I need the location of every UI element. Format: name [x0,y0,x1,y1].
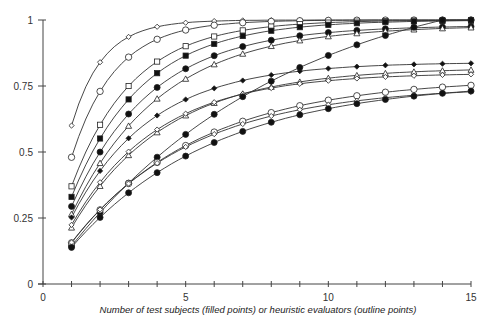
point-test-circle-a [97,149,103,155]
point-test-square [212,41,217,46]
point-heuristic-circle-b [468,82,474,88]
point-test-circle-a [183,66,189,72]
point-test-circle-a [126,111,132,117]
point-test-square [269,28,274,33]
x-axis-label: Number of test subjects (filled points) … [100,304,417,315]
point-test-circle-c [411,93,417,99]
point-test-circle-a [211,53,217,59]
point-test-circle-c [97,214,103,220]
point-heuristic-diamond-top [155,24,160,29]
curves [72,20,472,247]
point-test-diamond [183,97,188,102]
point-test-square [326,22,331,27]
point-test-circle-a [69,203,75,209]
point-heuristic-circle-b [411,86,417,92]
point-heuristic-square [212,34,217,39]
x-tick-label: 5 [183,292,189,303]
point-test-circle-b [297,64,303,70]
point-heuristic-square [155,59,160,64]
curve-test-circle-b [72,20,472,246]
point-test-circle-c [468,88,474,94]
point-test-diamond [240,78,245,83]
points [68,17,474,251]
point-test-circle-b [468,17,474,23]
y-tick-label: 0.75 [14,81,34,92]
y-tick-label: 1 [27,15,33,26]
point-test-diamond [326,66,331,71]
point-test-circle-a [268,37,274,43]
point-test-square [183,53,188,58]
point-heuristic-circle-b [382,89,388,95]
x-tick-label: 15 [465,292,477,303]
point-test-circle-b [211,111,217,117]
point-test-circle-a [240,44,246,50]
point-test-diamond [440,61,445,66]
point-test-diamond [383,63,388,68]
point-test-diamond [468,61,473,66]
point-test-circle-c [69,244,75,250]
y-tick-label: 0.25 [14,213,34,224]
point-heuristic-triangle-a [183,76,189,81]
point-heuristic-circle-b [439,84,445,90]
point-heuristic-circle-a [240,20,246,26]
point-heuristic-circle-a [182,27,188,33]
point-test-circle-c [211,140,217,146]
point-heuristic-diamond-top [183,20,188,25]
chart: 05101500.250.50.751 Number of test subje… [0,0,491,328]
point-test-diamond [269,72,274,77]
point-test-square [297,25,302,30]
point-test-circle-b [325,52,331,58]
point-test-circle-c [439,90,445,96]
point-test-circle-c [354,101,360,107]
point-test-circle-c [268,119,274,125]
point-heuristic-circle-a [68,154,74,160]
point-heuristic-square [97,122,102,127]
point-test-square [69,194,74,199]
point-heuristic-triangle-a [211,61,217,66]
point-heuristic-circle-a [97,88,103,94]
point-test-square [126,97,131,102]
point-heuristic-circle-a [154,36,160,42]
point-test-square [155,71,160,76]
y-tick-label: 0.5 [19,147,33,158]
point-test-circle-b [354,42,360,48]
point-test-circle-a [154,84,160,90]
point-test-circle-c [154,170,160,176]
point-heuristic-circle-a [211,22,217,28]
x-tick-label: 0 [40,292,46,303]
point-heuristic-triangle-a [97,160,103,165]
point-test-square [383,20,388,25]
point-test-diamond [411,62,416,67]
point-heuristic-square [240,28,245,33]
point-heuristic-diamond-top [69,123,74,128]
point-test-diamond [354,64,359,69]
x-tick-label: 10 [323,292,335,303]
point-heuristic-diamond-b [69,222,74,227]
point-test-circle-c [382,97,388,103]
point-test-square [354,21,359,26]
point-test-square [240,33,245,38]
point-test-circle-b [382,33,388,39]
point-heuristic-diamond-top [126,34,131,39]
curve-heuristic-circle-b [72,85,472,243]
point-test-circle-c [183,153,189,159]
point-test-circle-c [126,190,132,196]
point-heuristic-triangle-a [154,96,160,101]
point-test-circle-b [268,78,274,84]
point-test-square [411,19,416,24]
point-test-circle-b [183,131,189,137]
point-test-circle-c [240,128,246,134]
point-test-circle-b [411,24,417,30]
point-heuristic-circle-a [125,54,131,60]
point-heuristic-square [126,83,131,88]
point-test-circle-c [297,112,303,118]
point-test-diamond [212,86,217,91]
point-test-square [97,136,102,141]
point-heuristic-square [183,44,188,49]
point-test-circle-c [325,106,331,112]
point-test-circle-b [240,94,246,100]
point-heuristic-square [69,184,74,189]
y-tick-label: 0 [27,279,33,290]
point-test-circle-b [439,17,445,23]
